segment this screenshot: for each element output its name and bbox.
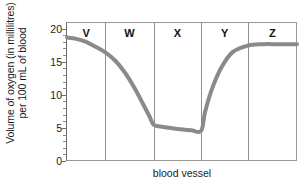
y-tick-mark-minor <box>63 141 66 142</box>
y-tick-mark-minor <box>63 68 66 69</box>
y-tick-label-20: 20 <box>40 23 62 35</box>
y-tick-label-0: 0 <box>40 155 62 167</box>
y-tick-mark-minor <box>63 148 66 149</box>
y-tick-mark-major <box>61 161 66 162</box>
y-tick-mark-minor <box>63 154 66 155</box>
y-tick-mark-minor <box>63 42 66 43</box>
y-tick-mark-minor <box>63 101 66 102</box>
y-tick-label-15: 15 <box>40 56 62 68</box>
x-axis-title: blood vessel <box>67 167 297 179</box>
y-tick-label-5: 5 <box>40 122 62 134</box>
oxygen-curve-path <box>67 38 297 133</box>
y-tick-mark-minor <box>63 82 66 83</box>
y-tick-mark-minor <box>63 121 66 122</box>
y-tick-label-10: 10 <box>40 89 62 101</box>
y-tick-mark-minor <box>63 88 66 89</box>
y-tick-mark-minor <box>63 55 66 56</box>
y-tick-mark-minor <box>63 135 66 136</box>
y-tick-mark-minor <box>63 35 66 36</box>
y-tick-mark-major <box>61 62 66 63</box>
y-axis-title-line-2: per 100 mL of blood <box>17 27 29 118</box>
y-tick-mark-minor <box>63 48 66 49</box>
y-tick-mark-major <box>61 29 66 30</box>
plot-area: VWXYZ <box>67 22 297 161</box>
y-axis-tick-labels: 05101520 <box>40 0 62 190</box>
y-tick-mark-major <box>61 128 66 129</box>
y-tick-mark-minor <box>63 108 66 109</box>
y-axis-title: Volume of oxygen (in millilitres) per 10… <box>0 0 34 148</box>
data-curve <box>67 23 297 162</box>
y-tick-mark-minor <box>63 115 66 116</box>
y-tick-mark-major <box>61 95 66 96</box>
oxygen-volume-chart: Volume of oxygen (in millilitres) per 10… <box>0 0 302 190</box>
y-tick-mark-minor <box>63 75 66 76</box>
